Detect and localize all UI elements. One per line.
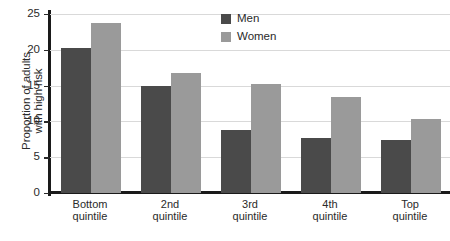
bar-men-3 — [221, 130, 251, 193]
x-axis-label: Topquintile — [370, 198, 450, 223]
bar-women-2 — [171, 73, 201, 193]
y-tick-mark — [44, 157, 49, 158]
bar-women-5 — [411, 119, 441, 193]
bar-men-5 — [381, 140, 411, 193]
bar-men-4 — [301, 138, 331, 193]
bar-chart: Proportion of adults with high risk 0510… — [0, 0, 450, 241]
y-tick-mark — [44, 86, 49, 87]
bar-men-2 — [141, 86, 171, 193]
y-tick-label: 0 — [10, 187, 40, 199]
x-axis-label: Bottomquintile — [50, 198, 130, 223]
legend-swatch-men — [221, 14, 231, 24]
y-tick-label: 10 — [10, 115, 40, 127]
y-axis-title-line-1: Proportion of adults — [20, 52, 32, 150]
y-tick-mark — [44, 121, 49, 122]
legend: Men Women — [221, 11, 276, 47]
y-axis-title: Proportion of adults with high risk — [17, 6, 47, 196]
legend-label-women: Women — [237, 31, 276, 43]
y-tick-mark — [44, 193, 49, 194]
x-axis-label: 4thquintile — [290, 198, 370, 223]
y-tick-mark — [44, 14, 49, 15]
bar-women-4 — [331, 97, 361, 193]
y-tick-label: 25 — [10, 8, 40, 20]
x-axis-label: 2ndquintile — [130, 198, 210, 223]
y-tick-label: 20 — [10, 44, 40, 56]
y-tick-mark — [44, 50, 49, 51]
legend-item-women: Women — [221, 29, 276, 44]
y-tick-label: 5 — [10, 151, 40, 163]
y-tick-label: 15 — [10, 80, 40, 92]
bar-women-1 — [91, 23, 121, 193]
bar-men-1 — [61, 48, 91, 193]
legend-item-men: Men — [221, 11, 276, 26]
x-axis-label: 3rdquintile — [210, 198, 290, 223]
bar-women-3 — [251, 84, 281, 193]
legend-label-men: Men — [237, 13, 259, 25]
legend-swatch-women — [221, 32, 231, 42]
